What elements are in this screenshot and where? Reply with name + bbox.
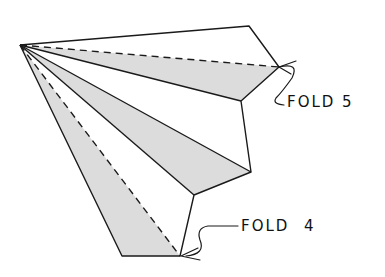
fold-4-label: FOLD 4 [241, 217, 316, 235]
fold-4-pointer-icon [186, 226, 238, 256]
airplane-diagram [0, 0, 385, 277]
fold-5-label: FOLD 5 [287, 93, 354, 111]
fold-4-arrowhead-icon [181, 248, 200, 260]
